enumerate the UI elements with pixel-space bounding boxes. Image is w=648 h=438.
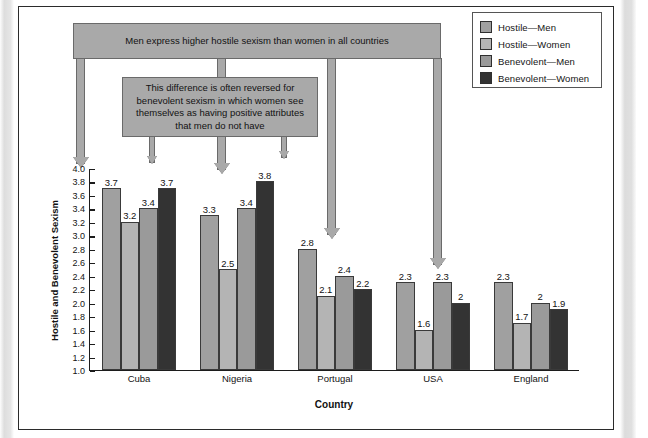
bar-cuba-hostile-women: 3.2 <box>121 222 140 370</box>
bar-england-benevolent-men: 2 <box>531 303 550 370</box>
bar-nigeria-hostile-women: 2.5 <box>219 269 238 370</box>
y-axis-title-text: Hostile and Benevolent Sexism <box>49 200 60 341</box>
y-axis-tick: 1.8 <box>72 312 90 322</box>
x-axis-tick-nigeria: Nigeria <box>188 373 286 384</box>
bar-group-portugal: 2.82.12.42.2 <box>298 169 372 370</box>
arrow-head-cuba-benevolent-women <box>147 156 157 164</box>
bar-value-label: 2 <box>538 291 543 302</box>
bar-cuba-hostile-men: 3.7 <box>102 188 121 370</box>
bar-group-cuba: 3.73.23.43.7 <box>102 169 176 370</box>
legend-swatch-benevolent-men <box>480 55 492 67</box>
bar-usa-benevolent-men: 2.3 <box>433 282 452 370</box>
legend-swatch-benevolent-women <box>480 72 492 84</box>
y-axis-tick: 2.6 <box>72 258 90 268</box>
bar-usa-benevolent-women: 2 <box>452 303 471 370</box>
y-axis-tick: 2.8 <box>72 245 90 255</box>
bar-portugal-benevolent-men: 2.4 <box>335 276 354 370</box>
bar-nigeria-benevolent-women: 3.8 <box>256 181 275 370</box>
bar-england-hostile-men: 2.3 <box>494 282 513 370</box>
page-edge-right <box>620 0 636 438</box>
bar-value-label: 2.8 <box>301 237 314 248</box>
bar-nigeria-benevolent-men: 3.4 <box>237 208 256 370</box>
y-axis-tick: 1.6 <box>72 326 90 336</box>
y-axis-tick: 3.8 <box>72 177 90 187</box>
figure-frame: Hostile—Men Hostile—Women Benevolent—Men… <box>18 6 614 430</box>
bar-value-label: 2.5 <box>221 258 234 269</box>
y-axis-tick: 3.0 <box>72 231 90 241</box>
callout-top-box: Men express higher hostile sexism than w… <box>73 23 441 59</box>
y-axis-title: Hostile and Benevolent Sexism <box>47 169 61 371</box>
bar-value-label: 2.2 <box>356 278 369 289</box>
bar-cuba-benevolent-men: 3.4 <box>139 208 158 370</box>
x-axis-tick-portugal: Portugal <box>286 373 384 384</box>
bar-portugal-hostile-men: 2.8 <box>298 249 317 370</box>
bar-value-label: 3.4 <box>142 197 155 208</box>
y-axis-tick: 3.2 <box>72 218 90 228</box>
legend-label-benevolent-men: Benevolent—Men <box>498 56 575 67</box>
legend-item-benevolent-men: Benevolent—Men <box>480 53 601 69</box>
bar-value-label: 1.9 <box>552 298 565 309</box>
bar-value-label: 2 <box>458 291 463 302</box>
arrow-head-nigeria-benevolent-women <box>279 151 289 159</box>
bar-england-benevolent-women: 1.9 <box>550 309 569 370</box>
bar-group-england: 2.31.721.9 <box>494 169 568 370</box>
chart-legend: Hostile—Men Hostile—Women Benevolent—Men… <box>472 12 602 88</box>
legend-label-benevolent-women: Benevolent—Women <box>498 73 589 84</box>
legend-item-benevolent-women: Benevolent—Women <box>480 70 601 86</box>
bar-value-label: 3.3 <box>203 204 216 215</box>
legend-item-hostile-men: Hostile—Men <box>480 19 601 35</box>
legend-swatch-hostile-men <box>480 21 492 33</box>
bar-value-label: 2.3 <box>436 271 449 282</box>
bar-value-label: 2.3 <box>399 271 412 282</box>
bar-value-label: 2.1 <box>319 284 332 295</box>
bar-cuba-benevolent-women: 3.7 <box>158 188 177 370</box>
bar-value-label: 3.2 <box>123 210 136 221</box>
bar-value-label: 1.7 <box>515 311 528 322</box>
y-axis-tick: 1.0 <box>72 366 90 376</box>
bar-group-nigeria: 3.32.53.43.8 <box>200 169 274 370</box>
y-axis-tick: 3.6 <box>72 191 90 201</box>
bar-value-label: 3.4 <box>240 197 253 208</box>
y-axis-tick: 2.2 <box>72 285 90 295</box>
y-axis-tick: 4.0 <box>72 164 90 174</box>
bar-england-hostile-women: 1.7 <box>513 323 532 370</box>
bar-value-label: 1.6 <box>417 318 430 329</box>
bar-value-label: 3.7 <box>105 177 118 188</box>
connector-stem-cuba-hostile-men <box>76 58 85 164</box>
x-axis-tick-england: England <box>482 373 580 384</box>
bar-value-label: 2.4 <box>338 264 351 275</box>
plot-area: 1.01.21.41.61.82.02.22.42.62.83.03.23.43… <box>89 169 579 371</box>
legend-label-hostile-women: Hostile—Women <box>498 39 570 50</box>
bar-value-label: 3.8 <box>258 170 271 181</box>
bar-portugal-benevolent-women: 2.2 <box>354 289 373 370</box>
legend-label-hostile-men: Hostile—Men <box>498 22 556 33</box>
x-axis-title: Country <box>89 399 579 410</box>
callout-second-box: This difference is often reversed for be… <box>122 77 318 137</box>
y-axis-tick: 2.0 <box>72 299 90 309</box>
y-axis-tick: 3.4 <box>72 204 90 214</box>
y-axis-tick: 1.2 <box>72 353 90 363</box>
bar-value-label: 2.3 <box>497 271 510 282</box>
bar-group-usa: 2.31.62.32 <box>396 169 470 370</box>
bar-value-label: 3.7 <box>160 177 173 188</box>
y-axis-tick: 2.4 <box>72 272 90 282</box>
bar-usa-hostile-men: 2.3 <box>396 282 415 370</box>
x-axis-tick-usa: USA <box>384 373 482 384</box>
legend-swatch-hostile-women <box>480 38 492 50</box>
legend-item-hostile-women: Hostile—Women <box>480 36 601 52</box>
bar-nigeria-hostile-men: 3.3 <box>200 215 219 370</box>
bar-portugal-hostile-women: 2.1 <box>317 296 336 370</box>
x-axis-tick-cuba: Cuba <box>90 373 188 384</box>
page-edge-left <box>0 0 14 438</box>
y-axis-tick: 1.4 <box>72 339 90 349</box>
bar-usa-hostile-women: 1.6 <box>415 330 434 370</box>
